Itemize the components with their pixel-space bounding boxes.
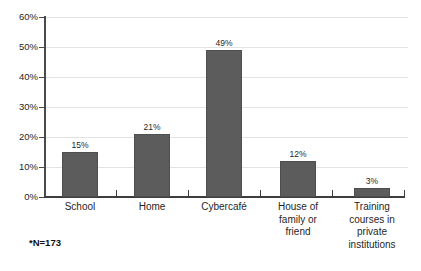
y-axis-labels: 60% 50% 40% 30% 20% 10% 0% bbox=[0, 0, 38, 271]
x-axis-label-training-courses: Training courses in private institutions bbox=[340, 201, 404, 251]
y-axis-label-20: 20% bbox=[0, 132, 38, 142]
y-tick-50 bbox=[39, 47, 44, 48]
y-tick-20 bbox=[39, 137, 44, 138]
x-axis-label-home: Home bbox=[122, 201, 182, 214]
x-tick-3 bbox=[260, 190, 261, 197]
bar-cybercafe[interactable] bbox=[206, 50, 242, 197]
y-tick-60 bbox=[39, 17, 44, 18]
x-axis-label-house-of-family-or-friend: House of family or friend bbox=[266, 201, 330, 239]
x-tick-4 bbox=[332, 190, 333, 197]
bar-value-training-courses: 3% bbox=[352, 177, 392, 186]
y-axis-label-50: 50% bbox=[0, 42, 38, 52]
x-axis-label-cybercafe: Cybercafé bbox=[194, 201, 254, 214]
bar-chart: 60% 50% 40% 30% 20% 10% 0% 15% 21% 49% 1… bbox=[0, 0, 421, 271]
x-axis-label-school: School bbox=[50, 201, 110, 214]
y-axis-label-0: 0% bbox=[0, 192, 38, 202]
x-tick-end bbox=[404, 190, 405, 197]
y-axis-label-60: 60% bbox=[0, 12, 38, 22]
y-axis-label-30: 30% bbox=[0, 102, 38, 112]
y-axis-line bbox=[44, 16, 46, 198]
x-tick-2 bbox=[188, 190, 189, 197]
bar-school[interactable] bbox=[62, 152, 98, 197]
bar-value-school: 15% bbox=[60, 141, 100, 150]
y-tick-10 bbox=[39, 167, 44, 168]
bar-value-cybercafe: 49% bbox=[204, 39, 244, 48]
y-tick-40 bbox=[39, 77, 44, 78]
footnote-sample-size: *N=173 bbox=[29, 237, 61, 248]
bar-value-home: 21% bbox=[132, 123, 172, 132]
bar-house-of-family-or-friend[interactable] bbox=[280, 161, 316, 197]
y-tick-0 bbox=[39, 197, 44, 198]
y-axis-label-40: 40% bbox=[0, 72, 38, 82]
x-tick-1 bbox=[116, 190, 117, 197]
gridline-60 bbox=[44, 17, 408, 18]
bar-home[interactable] bbox=[134, 134, 170, 197]
y-axis-label-10: 10% bbox=[0, 162, 38, 172]
bar-value-house-of-family-or-friend: 12% bbox=[278, 150, 318, 159]
bar-training-courses[interactable] bbox=[354, 188, 390, 197]
y-tick-30 bbox=[39, 107, 44, 108]
